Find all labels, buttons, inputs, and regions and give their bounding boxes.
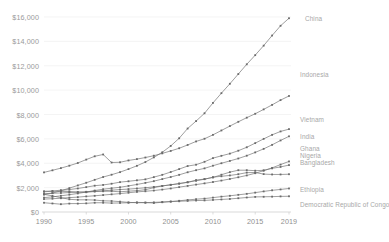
data-point-marker: [254, 152, 256, 154]
data-point-marker: [246, 63, 248, 65]
data-point-marker: [288, 188, 290, 190]
data-point-marker: [144, 189, 146, 191]
data-point-marker: [288, 164, 290, 166]
data-point-marker: [229, 175, 231, 177]
data-point-marker: [246, 172, 248, 174]
series-line: [44, 136, 289, 197]
series-line: [44, 96, 289, 172]
data-point-marker: [237, 121, 239, 123]
data-point-marker: [153, 176, 155, 178]
data-point-marker: [60, 192, 62, 194]
y-tick-label: $8,000: [0, 111, 39, 120]
data-point-marker: [280, 131, 282, 133]
data-point-marker: [204, 161, 206, 163]
data-point-marker: [195, 164, 197, 166]
data-point-marker: [161, 201, 163, 203]
series-line: [44, 129, 289, 191]
data-point-marker: [153, 155, 155, 157]
data-point-marker: [204, 178, 206, 180]
data-point-marker: [246, 175, 248, 177]
data-point-marker: [246, 155, 248, 157]
data-point-marker: [212, 176, 214, 178]
data-point-marker: [263, 45, 265, 47]
data-point-marker: [237, 194, 239, 196]
data-point-marker: [119, 171, 121, 173]
data-point-marker: [288, 128, 290, 130]
data-point-marker: [43, 198, 45, 200]
data-point-marker: [85, 191, 87, 193]
series-label-bangladesh: Bangladesh: [300, 159, 335, 166]
data-point-marker: [77, 185, 79, 187]
data-point-marker: [128, 188, 130, 190]
data-point-marker: [204, 138, 206, 140]
data-point-marker: [212, 102, 214, 104]
data-point-marker: [102, 190, 104, 192]
data-point-marker: [111, 162, 113, 164]
data-point-marker: [195, 184, 197, 186]
data-point-marker: [111, 193, 113, 195]
data-point-marker: [77, 199, 79, 201]
data-point-marker: [60, 197, 62, 199]
data-point-marker: [254, 142, 256, 144]
data-point-marker: [195, 141, 197, 143]
data-point-marker: [178, 186, 180, 188]
data-point-marker: [170, 150, 172, 152]
data-point-marker: [161, 174, 163, 176]
data-point-marker: [229, 125, 231, 127]
data-point-marker: [119, 191, 121, 193]
data-point-marker: [94, 185, 96, 187]
data-point-marker: [144, 190, 146, 192]
series-line: [44, 18, 289, 194]
series-label-ethiopia: Ethiopia: [300, 186, 324, 193]
data-point-marker: [102, 176, 104, 178]
data-point-marker: [229, 195, 231, 197]
data-point-marker: [178, 147, 180, 149]
data-point-marker: [212, 165, 214, 167]
data-point-marker: [52, 195, 54, 197]
data-point-marker: [237, 176, 239, 178]
data-point-marker: [68, 203, 70, 205]
data-point-marker: [111, 200, 113, 202]
series-lines-group: [43, 17, 290, 205]
data-point-marker: [170, 184, 172, 186]
data-point-marker: [94, 195, 96, 197]
data-point-marker: [280, 174, 282, 176]
data-point-marker: [288, 135, 290, 137]
data-point-marker: [128, 160, 130, 162]
data-point-marker: [221, 175, 223, 177]
data-point-marker: [229, 178, 231, 180]
data-point-marker: [43, 193, 45, 195]
data-point-marker: [52, 169, 54, 171]
data-point-marker: [212, 199, 214, 201]
data-point-marker: [68, 191, 70, 193]
data-point-marker: [52, 203, 54, 205]
data-point-marker: [128, 190, 130, 192]
data-point-marker: [161, 189, 163, 191]
data-point-marker: [178, 168, 180, 170]
data-point-marker: [204, 182, 206, 184]
data-point-marker: [263, 108, 265, 110]
data-point-marker: [221, 155, 223, 157]
data-point-marker: [85, 159, 87, 161]
data-point-marker: [288, 195, 290, 197]
data-point-marker: [170, 171, 172, 173]
data-point-marker: [43, 202, 45, 204]
data-point-marker: [263, 173, 265, 175]
data-point-marker: [136, 184, 138, 186]
data-point-marker: [271, 174, 273, 176]
data-point-marker: [212, 134, 214, 136]
data-point-marker: [204, 112, 206, 114]
series-label-democratic-republic-of-congo: Democratic Republic of Congo: [300, 201, 389, 208]
data-point-marker: [144, 157, 146, 159]
data-point-marker: [271, 104, 273, 106]
data-point-marker: [85, 196, 87, 198]
data-point-marker: [221, 180, 223, 182]
data-point-marker: [280, 189, 282, 191]
data-point-marker: [43, 171, 45, 173]
data-point-marker: [136, 188, 138, 190]
data-point-marker: [246, 117, 248, 119]
y-tick-label: $0: [0, 208, 39, 217]
data-point-marker: [111, 174, 113, 176]
data-point-marker: [195, 200, 197, 202]
data-point-marker: [221, 162, 223, 164]
